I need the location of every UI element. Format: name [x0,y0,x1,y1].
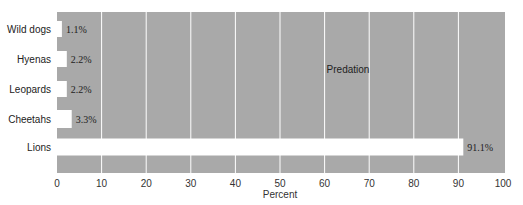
bar-leopards [57,81,67,97]
predation-annotation: Predation [327,64,370,75]
category-label: Lions [27,142,51,153]
x-tick-label: 50 [274,178,286,189]
x-tick-label: 30 [185,178,197,189]
category-label: Hyenas [17,54,51,65]
x-tick-label: 20 [141,178,153,189]
x-tick-label: 0 [54,178,60,189]
data-label: 3.3% [76,114,97,125]
bar-cheetahs [57,110,72,128]
bar-lions [57,139,463,156]
x-tick-label: 100 [495,178,512,189]
category-label: Wild dogs [7,24,51,35]
category-label: Cheetahs [8,114,51,125]
data-label: 2.2% [71,84,92,95]
x-tick-label: 80 [408,178,420,189]
category-label: Leopards [9,84,51,95]
x-axis-label: Percent [263,189,298,200]
predation-bar-chart: Wild dogsHyenasLeopardsCheetahsLions 1.1… [0,0,523,205]
category-labels: Wild dogsHyenasLeopardsCheetahsLions [7,24,51,153]
x-tick-label: 40 [230,178,242,189]
x-tick-label: 90 [453,178,465,189]
data-label: 1.1% [66,24,87,35]
bar-hyenas [57,51,67,67]
data-label: 91.1% [467,142,493,153]
x-tick-label: 70 [364,178,376,189]
bar-wild-dogs [57,21,62,37]
x-tick-label: 60 [319,178,331,189]
x-tick-label: 10 [96,178,108,189]
x-tick-labels: 0102030405060708090100 [54,178,512,189]
data-label: 2.2% [71,54,92,65]
